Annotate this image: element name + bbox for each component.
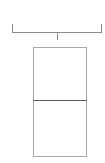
stack-cell-bottom [34,101,86,155]
stack-cell-top [34,48,86,100]
bracket-center-stem [57,33,58,40]
diagram-canvas [0,0,105,163]
